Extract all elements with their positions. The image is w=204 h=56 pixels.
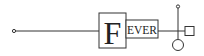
fever-diagram: F EVER: [0, 0, 204, 56]
bottom-circle-node: [173, 40, 184, 51]
initial-letter: F: [104, 15, 122, 51]
label-rest: EVER: [127, 24, 157, 36]
right-square-node: [185, 27, 194, 36]
left-terminal-node: [12, 29, 15, 32]
top-terminal-node: [176, 5, 179, 8]
